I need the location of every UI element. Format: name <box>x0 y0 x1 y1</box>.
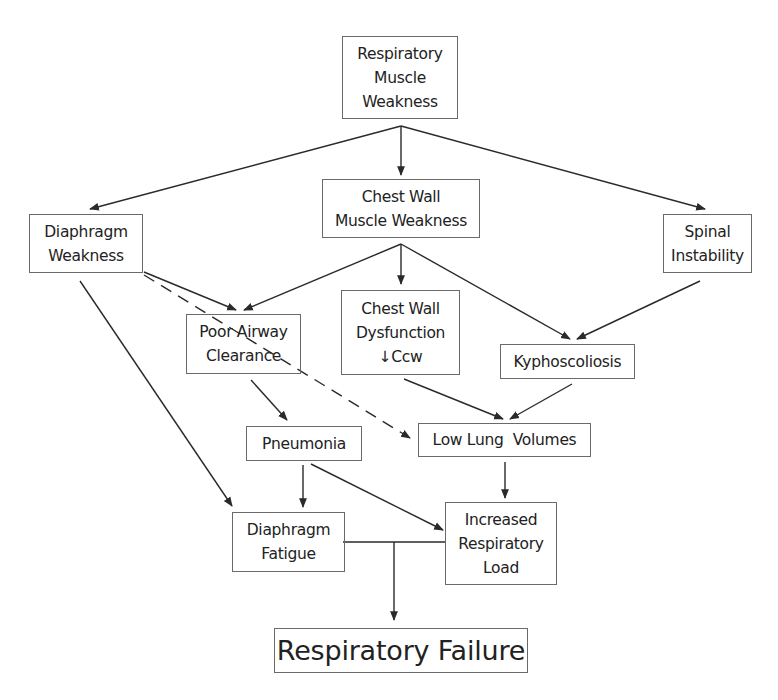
edge-pac-pn <box>251 380 287 420</box>
node-respiratory-muscle-weakness: Respiratory Muscle Weakness <box>342 36 458 119</box>
node-pneumonia: Pneumonia <box>246 426 362 461</box>
node-label-line: Poor Airway <box>199 320 287 344</box>
edge-cwd-llv <box>404 379 503 419</box>
node-label-line: Weakness <box>48 244 124 268</box>
node-label-line: Low Lung Volumes <box>433 428 577 452</box>
node-chest-wall-muscle-weakness: Chest Wall Muscle Weakness <box>322 179 480 238</box>
node-label-line: Respiratory Failure <box>277 634 525 668</box>
edge-dw-pac <box>144 272 236 310</box>
node-label-line: Diaphragm <box>247 518 331 542</box>
flowchart-canvas: Respiratory Muscle Weakness Chest Wall M… <box>0 0 778 700</box>
node-label-line: Kyphoscoliosis <box>514 350 622 374</box>
node-label-line: Chest Wall <box>362 185 441 209</box>
edge-si-ky <box>577 281 700 339</box>
edge-ky-llv <box>510 384 572 419</box>
node-label-line: Load <box>483 556 519 580</box>
node-label-line: Chest Wall <box>361 297 440 321</box>
node-label-line: Instability <box>671 244 744 268</box>
node-label-line: ↓Ccw <box>379 345 423 369</box>
node-label-line: Clearance <box>206 344 281 368</box>
node-respiratory-failure: Respiratory Failure <box>274 628 528 673</box>
node-diaphragm-fatigue: Diaphragm Fatigue <box>232 512 345 572</box>
node-label-line: Increased <box>465 508 538 532</box>
node-poor-airway-clearance: Poor Airway Clearance <box>186 314 301 374</box>
node-label-line: Dysfunction <box>356 321 445 345</box>
node-diaphragm-weakness: Diaphragm Weakness <box>29 214 143 273</box>
node-label-line: Muscle <box>374 66 426 90</box>
node-label-line: Pneumonia <box>262 432 346 456</box>
node-label-line: Muscle Weakness <box>335 209 467 233</box>
node-chest-wall-dysfunction: Chest Wall Dysfunction ↓Ccw <box>341 290 460 375</box>
node-label-line: Respiratory <box>357 42 443 66</box>
node-low-lung-volumes: Low Lung Volumes <box>418 423 591 457</box>
node-label-line: Fatigue <box>261 542 315 566</box>
node-increased-respiratory-load: Increased Respiratory Load <box>445 502 557 585</box>
node-kyphoscoliosis: Kyphoscoliosis <box>500 344 635 379</box>
node-spinal-instability: Spinal Instability <box>663 214 752 273</box>
node-label-line: Spinal <box>685 220 731 244</box>
node-label-line: Weakness <box>362 90 438 114</box>
node-label-line: Respiratory <box>458 532 544 556</box>
node-label-line: Diaphragm <box>44 220 128 244</box>
